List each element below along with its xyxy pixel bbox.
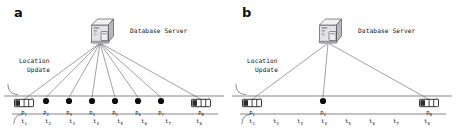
time-label: t5 <box>117 118 123 126</box>
panel-a: a Database Server Location Update p1p2p3… <box>0 0 228 140</box>
time-label: t3 <box>69 118 75 126</box>
time-label: t5 <box>345 118 351 126</box>
position-label-subscript: 5 <box>115 112 117 117</box>
time-label: t1 <box>21 118 27 126</box>
database-server-label: Database Server <box>130 27 187 34</box>
position-label: p1 <box>21 109 27 117</box>
position-label: p2 <box>43 109 49 117</box>
position-label-subscript: 1 <box>252 112 254 117</box>
road-curve <box>8 84 18 95</box>
time-label: t7 <box>393 118 399 126</box>
position-dot <box>43 98 49 104</box>
time-label-subscript: 4 <box>324 121 326 126</box>
location-update-line <box>100 43 161 97</box>
position-label-subscript: 7 <box>161 112 163 117</box>
location-update-line <box>46 43 100 97</box>
time-label-subscript: 3 <box>300 121 302 126</box>
time-label: t1 <box>249 118 255 126</box>
road-curve <box>236 84 246 95</box>
position-label: p5 <box>112 109 118 117</box>
position-label: p8 <box>198 109 204 117</box>
server-base <box>91 41 109 43</box>
location-update-label-line2: Update <box>255 66 278 73</box>
server-base <box>319 41 337 43</box>
vehicle-cab <box>420 100 425 106</box>
time-label: t4 <box>321 118 327 126</box>
vehicle-icon <box>192 97 211 106</box>
database-server-label: Database Server <box>358 27 415 34</box>
server-slot <box>322 30 325 31</box>
position-label-subscript: 3 <box>69 112 71 117</box>
time-label-subscript: 5 <box>120 121 122 126</box>
time-label-subscript: 6 <box>144 121 146 126</box>
time-label-subscript: 7 <box>396 121 398 126</box>
server-power-icon <box>94 33 96 35</box>
time-label-subscript: 5 <box>348 121 350 126</box>
vehicle-icon <box>15 97 34 106</box>
location-update-label-line1: Location <box>19 57 50 64</box>
location-update-line <box>69 43 100 97</box>
position-label-subscript: 1 <box>24 112 26 117</box>
position-dot <box>158 98 164 104</box>
vehicle-icon <box>420 97 439 106</box>
time-label-subscript: 2 <box>276 121 278 126</box>
server-drive <box>101 32 108 41</box>
time-label: t2 <box>45 118 51 126</box>
time-label-subscript: 6 <box>372 121 374 126</box>
location-update-label-line1: Location <box>247 57 278 64</box>
panel-b: b Database Server Location Update p1p4p8… <box>228 0 456 140</box>
time-label-subscript: 8 <box>427 121 429 126</box>
time-label-subscript: 1 <box>24 121 26 126</box>
server-drive-slot <box>102 33 107 34</box>
time-label: t4 <box>93 118 99 126</box>
time-label: t8 <box>424 118 430 126</box>
position-label: p3 <box>66 109 72 117</box>
server-icon <box>90 19 114 44</box>
position-label: p7 <box>158 109 164 117</box>
position-dot <box>320 98 326 104</box>
position-label-subscript: 8 <box>429 112 431 117</box>
server-slot <box>94 27 100 28</box>
time-label: t2 <box>273 118 279 126</box>
server-drive <box>329 32 336 41</box>
server-slot <box>94 30 97 31</box>
time-label-subscript: 1 <box>252 121 254 126</box>
server-icon <box>318 19 342 44</box>
position-label-subscript: 8 <box>201 112 203 117</box>
position-dot <box>66 98 72 104</box>
location-update-line <box>328 43 429 99</box>
location-update-line <box>323 43 328 97</box>
position-label: p4 <box>320 109 326 117</box>
server-drive-slot <box>330 33 335 34</box>
position-label-subscript: 4 <box>92 112 94 117</box>
server-power-icon <box>322 33 324 35</box>
time-label-subscript: 4 <box>96 121 98 126</box>
vehicle-cab <box>243 100 248 106</box>
time-label-subscript: 8 <box>199 121 201 126</box>
location-update-line <box>100 43 201 99</box>
position-label-subscript: 6 <box>138 112 140 117</box>
server-slot <box>322 27 328 28</box>
vehicle-cab <box>192 100 197 106</box>
time-label-subscript: 3 <box>72 121 74 126</box>
position-label: p8 <box>426 109 432 117</box>
location-update-line <box>100 43 138 97</box>
time-label-subscript: 2 <box>48 121 50 126</box>
time-label: t8 <box>196 118 202 126</box>
time-label-subscript: 7 <box>168 121 170 126</box>
vehicle-icon <box>243 97 262 106</box>
position-label-subscript: 4 <box>323 112 325 117</box>
figure-root: a Database Server Location Update p1p2p3… <box>0 0 456 140</box>
time-label: t6 <box>369 118 375 126</box>
time-label: t3 <box>297 118 303 126</box>
position-label: p6 <box>135 109 141 117</box>
location-update-label-line2: Update <box>27 66 50 73</box>
position-label: p1 <box>249 109 255 117</box>
vehicle-cab <box>15 100 20 106</box>
time-label: t7 <box>165 118 171 126</box>
time-label: t6 <box>141 118 147 126</box>
position-dot <box>135 98 141 104</box>
position-dot <box>89 98 95 104</box>
location-update-line <box>92 43 100 97</box>
position-label: p4 <box>89 109 95 117</box>
